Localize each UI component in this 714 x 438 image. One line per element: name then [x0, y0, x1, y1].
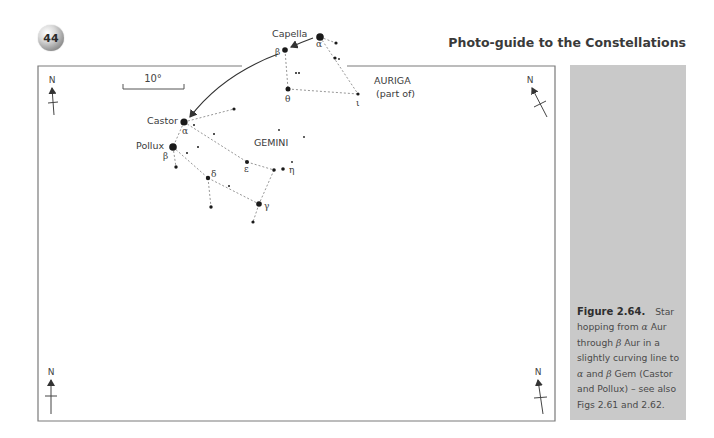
- star-labels: Capella α β θ ι AURIGA (part of) Castor …: [136, 28, 415, 211]
- star-theta-aur: [286, 87, 291, 92]
- north-arrow-bottom-left: N: [45, 367, 57, 414]
- label-delta-gem: δ: [211, 169, 216, 179]
- scale-bar: [123, 84, 184, 89]
- north-label: N: [48, 367, 55, 377]
- north-arrow-top-left: N: [48, 75, 58, 115]
- north-label: N: [49, 75, 56, 85]
- label-beta-gem: β: [163, 151, 168, 161]
- label-alpha-aur: α: [316, 39, 322, 49]
- label-auriga: AURIGA: [374, 75, 411, 86]
- label-capella: Capella: [272, 28, 307, 39]
- caption-panel: Figure 2.64.Star hopping from α Aur thro…: [570, 65, 686, 420]
- north-label: N: [527, 75, 534, 85]
- label-theta-aur: θ: [285, 94, 290, 104]
- label-castor: Castor: [147, 115, 178, 126]
- star-castor: [180, 118, 187, 125]
- label-beta-aur: β: [275, 47, 280, 57]
- label-eta-gem: η: [289, 165, 294, 175]
- north-arrow-top-right: N: [527, 75, 547, 117]
- label-alpha-gem: α: [182, 126, 188, 136]
- hop-arrow-capella-to-beta: [291, 38, 313, 47]
- label-gamma-gem: γ: [264, 201, 269, 211]
- scale-bar-label: 10°: [144, 73, 162, 84]
- label-auriga-note: (part of): [376, 88, 415, 99]
- star-iota-aur: [356, 92, 359, 95]
- label-iota-aur: ι: [356, 98, 360, 108]
- star-eta-gem: [281, 167, 285, 171]
- north-arrow-bottom-right: N: [534, 367, 547, 414]
- label-epsilon-gem: ε: [244, 164, 249, 174]
- figure-label: Figure 2.64.: [577, 306, 645, 317]
- label-pollux: Pollux: [136, 140, 165, 151]
- star-gamma-gem: [256, 201, 262, 207]
- figure-caption: Figure 2.64.Star hopping from α Aur thro…: [577, 304, 685, 413]
- star-pollux: [169, 143, 177, 151]
- label-gemini: GEMINI: [254, 137, 288, 148]
- star-delta-gem: [206, 176, 210, 180]
- north-label: N: [535, 367, 542, 377]
- gemini-stars: [169, 107, 305, 223]
- star-beta-aur: [282, 47, 288, 53]
- caption-text: and: [583, 368, 606, 379]
- chart-frame: [38, 66, 555, 421]
